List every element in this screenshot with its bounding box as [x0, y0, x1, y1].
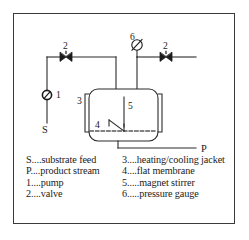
legend-desc: product stream [40, 165, 99, 176]
valve-left-icon [60, 51, 72, 61]
label-valve-right: 2 [163, 40, 168, 51]
legend-dots: .... [30, 165, 40, 176]
gas-outlet-line [137, 50, 196, 90]
label-pressure-gauge: 6 [130, 31, 135, 42]
legend-item: P....product stream [26, 165, 100, 176]
legend-dots: .... [127, 165, 137, 176]
legend-desc: pump [41, 177, 64, 188]
label-valve-left: 2 [63, 40, 68, 51]
legend-desc: valve [41, 188, 63, 199]
legend-item: 4....flat membrane [122, 165, 225, 176]
legend-desc: magnet stirrer [139, 177, 194, 188]
legend-right-column: 3....heating/cooling jacket 4....flat me… [122, 154, 225, 200]
process-flow-diagram: S P 1 2 2 3 4 5 6 [0, 0, 249, 240]
product-stream-line [118, 141, 196, 148]
legend-item: 5.....magnet stirrer [122, 177, 225, 188]
legend-item: 2....valve [26, 188, 100, 199]
legend-desc: pressure gauge [139, 188, 198, 199]
legend-dots: ..... [127, 188, 139, 199]
legend-desc: heating/cooling jacket [137, 154, 225, 165]
legend-desc: flat membrane [137, 165, 195, 176]
legend-dots: .... [127, 154, 137, 165]
legend-dots: .... [32, 154, 42, 165]
valve-right-icon [160, 51, 172, 61]
legend-item: S....substrate feed [26, 154, 100, 165]
label-jacket: 3 [77, 95, 82, 106]
figure-root: S P 1 2 2 3 4 5 6 S....substrate feed P.… [0, 0, 249, 240]
legend-left-column: S....substrate feed P....product stream … [26, 154, 100, 200]
legend-item: 6.....pressure gauge [122, 188, 225, 199]
legend-desc: substrate feed [41, 154, 96, 165]
legend-dots: .... [31, 177, 41, 188]
label-substrate-feed: S [42, 124, 48, 135]
legend-dots: .... [31, 188, 41, 199]
label-pump: 1 [56, 89, 61, 100]
legend-item: 3....heating/cooling jacket [122, 154, 225, 165]
label-product-stream: P [201, 143, 207, 154]
label-stirrer: 5 [128, 100, 133, 111]
pump-icon [42, 90, 51, 99]
label-membrane: 4 [95, 119, 100, 130]
legend-item: 1....pump [26, 177, 100, 188]
legend-dots: ..... [127, 177, 139, 188]
